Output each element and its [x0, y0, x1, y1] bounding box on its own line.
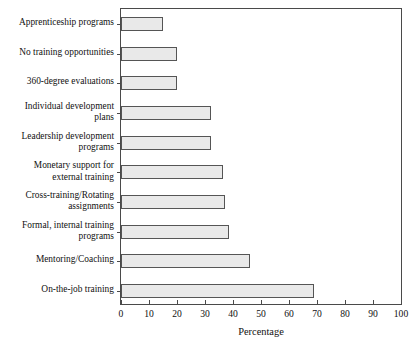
x-axis-tick [261, 300, 262, 305]
category-tick [117, 143, 121, 144]
bar [121, 254, 250, 268]
plot-area [120, 8, 402, 305]
x-axis-tick-label: 40 [218, 308, 248, 319]
category-tick [117, 24, 121, 25]
category-label: No training opportunities [0, 47, 114, 58]
category-label: Formal, internal training programs [0, 220, 114, 242]
category-tick [117, 261, 121, 262]
x-axis-tick [289, 300, 290, 305]
category-tick [117, 83, 121, 84]
x-axis-tick [205, 300, 206, 305]
category-label: Monetary support for external training [0, 160, 114, 182]
category-tick [117, 172, 121, 173]
x-axis-tick-label: 30 [190, 308, 220, 319]
x-axis-tick [317, 300, 318, 305]
x-axis-tick-label: 80 [330, 308, 360, 319]
bar [121, 225, 229, 239]
x-axis-tick [121, 300, 122, 305]
category-label: Cross-training/Rotating assignments [0, 190, 114, 212]
category-axis-labels: Apprenticeship programsNo training oppor… [0, 8, 118, 305]
x-axis-tick [373, 300, 374, 305]
x-axis-title: Percentage [120, 326, 402, 337]
category-label: Leadership development programs [0, 130, 114, 152]
category-label: Mentoring/Coaching [0, 255, 114, 266]
bar [121, 165, 223, 179]
bar [121, 76, 177, 90]
category-label: 360-degree evaluations [0, 77, 114, 88]
category-tick [117, 202, 121, 203]
bar-chart: Apprenticeship programsNo training oppor… [0, 0, 418, 354]
x-axis-tick [149, 300, 150, 305]
x-axis-tick-label: 20 [162, 308, 192, 319]
bar [121, 106, 211, 120]
bar [121, 136, 211, 150]
x-axis-tick-label: 70 [302, 308, 332, 319]
x-axis-tick [401, 300, 402, 305]
x-axis-tick [233, 300, 234, 305]
x-axis-tick-label: 50 [246, 308, 276, 319]
x-axis-tick-label: 90 [358, 308, 388, 319]
x-axis-tick-label: 10 [134, 308, 164, 319]
category-label: Individual development plans [0, 101, 114, 123]
category-label: On-the-job training [0, 285, 114, 296]
x-axis-tick-label: 100 [386, 308, 416, 319]
x-axis-tick-label: 0 [106, 308, 136, 319]
bar [121, 47, 177, 61]
x-axis-tick [177, 300, 178, 305]
category-tick [117, 113, 121, 114]
category-tick [117, 291, 121, 292]
x-axis-tick-label: 60 [274, 308, 304, 319]
category-label: Apprenticeship programs [0, 17, 114, 28]
category-tick [117, 54, 121, 55]
category-tick [117, 232, 121, 233]
x-axis-tick [345, 300, 346, 305]
bar [121, 195, 225, 209]
bar [121, 284, 314, 298]
bar [121, 17, 163, 31]
